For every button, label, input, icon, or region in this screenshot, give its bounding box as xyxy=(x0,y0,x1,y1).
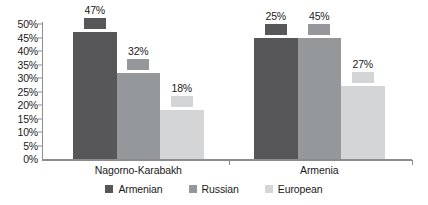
bar-value-label: 25% xyxy=(265,11,287,38)
bar-value-label-swatch xyxy=(352,72,374,83)
bar-value-label-swatch xyxy=(127,59,149,70)
bar: 45% xyxy=(298,38,342,160)
x-axis-category-label: Nagorno-Karabakh xyxy=(95,164,182,176)
bar-value-label-text: 27% xyxy=(352,59,374,70)
legend-item-label: European xyxy=(278,183,323,195)
y-axis: 50%45%40%35%30%25%20%15%10%5%0% xyxy=(0,24,38,160)
bar-value-label-swatch xyxy=(265,24,287,35)
bar-value-label: 32% xyxy=(127,46,149,73)
y-axis-tick-label: 40% xyxy=(18,46,38,57)
bar: 18% xyxy=(160,110,204,159)
y-axis-tick-label: 35% xyxy=(18,59,38,70)
plot-area: 47%32%18%25%45%27% xyxy=(43,24,412,159)
y-axis-tick-label: 30% xyxy=(18,73,38,84)
bar-value-label: 45% xyxy=(308,11,330,38)
bar-value-label-swatch xyxy=(308,24,330,35)
bar-value-label-text: 47% xyxy=(84,5,106,16)
legend-item-label: Russian xyxy=(202,183,239,195)
legend-swatch-icon xyxy=(105,185,113,193)
y-axis-tick-label: 45% xyxy=(18,32,38,43)
x-axis-tick-mark xyxy=(412,160,413,165)
legend-item[interactable]: Armenian xyxy=(105,183,162,195)
bar: 25% xyxy=(254,38,298,160)
x-axis-tick-mark xyxy=(229,160,230,165)
bar-value-label: 18% xyxy=(171,83,193,110)
bar: 27% xyxy=(341,86,385,159)
bar: 32% xyxy=(117,73,161,159)
bar-value-label-text: 18% xyxy=(171,83,193,94)
legend-item-label: Armenian xyxy=(118,183,162,195)
legend-swatch-icon xyxy=(265,185,273,193)
bar-value-label-swatch xyxy=(84,18,106,29)
y-axis-tick-label: 15% xyxy=(18,113,38,124)
bar: 47% xyxy=(73,32,117,159)
y-axis-tick-label: 10% xyxy=(18,127,38,138)
y-axis-tick-label: 50% xyxy=(18,19,38,30)
bar-value-label-text: 25% xyxy=(265,11,287,22)
bar-value-label: 47% xyxy=(84,5,106,32)
legend-item[interactable]: Russian xyxy=(189,183,239,195)
y-axis-tick-label: 25% xyxy=(18,86,38,97)
bar-group: 25%45%27% xyxy=(254,24,385,159)
y-axis-tick-label: 20% xyxy=(18,100,38,111)
bar-value-label-text: 45% xyxy=(308,11,330,22)
y-axis-tick-label: 0% xyxy=(23,154,38,165)
legend-item[interactable]: European xyxy=(265,183,323,195)
bar-value-label-text: 32% xyxy=(127,46,149,57)
bar-chart: 50%45%40%35%30%25%20%15%10%5%0% 47%32%18… xyxy=(0,0,428,205)
bar-group: 47%32%18% xyxy=(73,24,204,159)
chart-legend: ArmenianRussianEuropean xyxy=(0,183,428,195)
bar-value-label: 27% xyxy=(352,59,374,86)
x-axis-category-label: Armenia xyxy=(300,164,338,176)
y-axis-tick-label: 5% xyxy=(23,140,38,151)
x-axis-line xyxy=(42,159,412,161)
legend-swatch-icon xyxy=(189,185,197,193)
bar-value-label-swatch xyxy=(171,96,193,107)
